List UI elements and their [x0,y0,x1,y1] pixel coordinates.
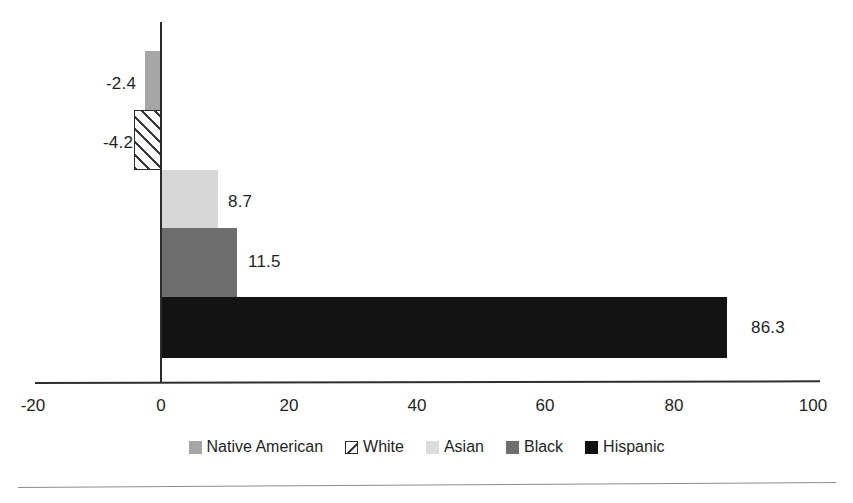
bar-white [134,110,162,170]
x-tick-label-100: 100 [783,396,843,416]
bar-native-american [145,51,161,110]
x-tick-label--20: -20 [3,396,63,416]
bar-black [161,228,237,297]
x-axis-zero-tick [161,375,162,383]
legend-item-asian[interactable]: Asian [426,438,484,456]
value-label-white: -4.2 [103,133,133,153]
chart-legend: Native American White Asian Black Hispan… [0,438,853,456]
plot-area: -2.4 -4.2 8.7 11.5 86.3 [0,0,853,390]
zero-baseline [160,22,162,382]
value-label-asian: 8.7 [228,192,252,212]
legend-item-black[interactable]: Black [506,438,563,456]
legend-label-hispanic: Hispanic [603,438,664,456]
legend-swatch-asian-icon [426,441,439,454]
legend-label-white: White [363,438,404,456]
legend-label-black: Black [524,438,563,456]
bar-hispanic [161,297,727,358]
legend-label-native-american: Native American [207,438,324,456]
x-tick-label-20: 20 [259,396,319,416]
x-tick-label-60: 60 [515,396,575,416]
legend-swatch-white-icon [345,441,358,454]
legend-swatch-native-american-icon [189,441,202,454]
page-divider-rule [18,482,836,488]
value-label-hispanic: 86.3 [751,318,785,338]
x-axis-line [35,380,820,384]
legend-swatch-hispanic-icon [585,441,598,454]
bar-asian [161,170,218,228]
legend-item-hispanic[interactable]: Hispanic [585,438,664,456]
x-tick-label-0: 0 [131,396,191,416]
x-tick-label-40: 40 [387,396,447,416]
bar-chart: -2.4 -4.2 8.7 11.5 86.3 -20 0 20 40 60 8… [0,0,853,503]
legend-item-white[interactable]: White [345,438,404,456]
value-label-native-american: -2.4 [106,74,136,94]
legend-swatch-black-icon [506,441,519,454]
legend-item-native-american[interactable]: Native American [189,438,324,456]
legend-label-asian: Asian [444,438,484,456]
value-label-black: 11.5 [248,252,281,272]
x-tick-label-80: 80 [644,396,704,416]
